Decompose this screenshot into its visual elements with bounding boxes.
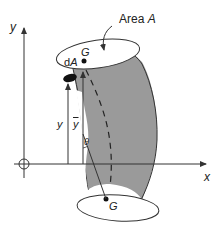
area-label: Area A bbox=[119, 13, 156, 25]
theta-label: θ bbox=[84, 138, 89, 147]
centroid-top bbox=[82, 59, 87, 64]
diagram-canvas bbox=[0, 0, 224, 229]
area-text: Area bbox=[119, 12, 144, 26]
area-var: A bbox=[148, 12, 156, 26]
y-axis-label: y bbox=[10, 21, 16, 33]
dA-A: A bbox=[70, 56, 77, 68]
ybar-label: y bbox=[73, 119, 79, 130]
G-top-label: G bbox=[81, 47, 90, 58]
dA-label: dA bbox=[64, 57, 77, 68]
x-axis-label: x bbox=[204, 171, 210, 183]
bottom-cross-section bbox=[76, 192, 160, 224]
G-bottom-label: G bbox=[109, 201, 118, 212]
y-distance-label: y bbox=[57, 119, 63, 130]
